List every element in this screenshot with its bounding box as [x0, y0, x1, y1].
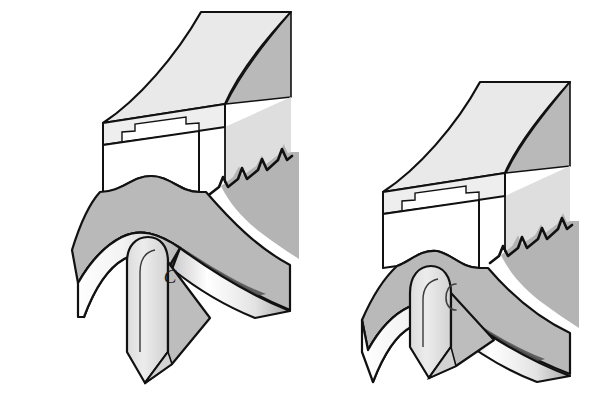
technical-illustration-figure: C — [0, 0, 594, 416]
left-panel: C — [72, 12, 299, 383]
right-panel — [362, 82, 579, 382]
annotation-label-c-left: C — [164, 266, 177, 287]
